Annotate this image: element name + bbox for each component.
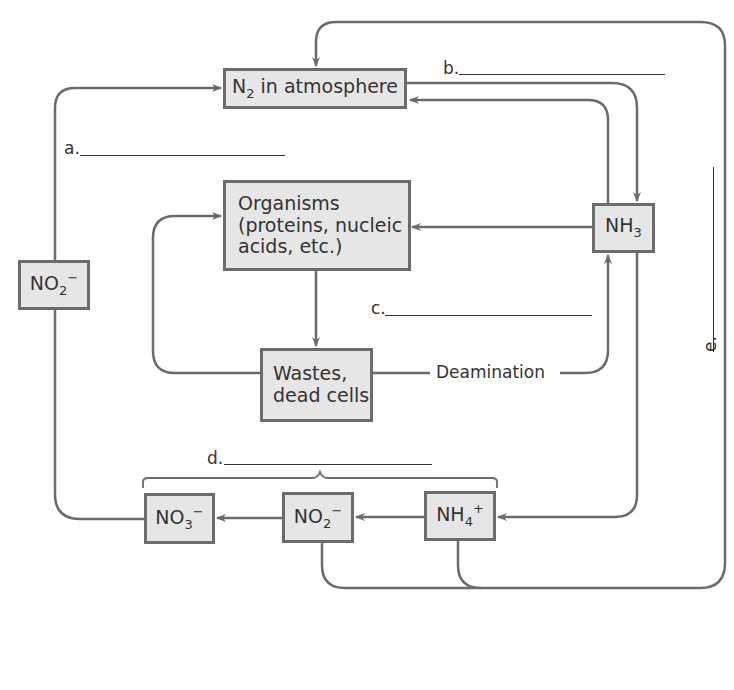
label-b: b. xyxy=(443,58,459,78)
blank-a[interactable] xyxy=(80,155,285,156)
label-d: d. xyxy=(207,448,223,468)
blank-c[interactable] xyxy=(385,315,592,316)
blank-d[interactable] xyxy=(224,464,432,465)
label-e: e. xyxy=(700,336,720,352)
nh3-box: NH3 xyxy=(592,203,655,253)
nh4-box: NH4+ xyxy=(424,491,496,541)
wastes-box: Wastes, dead cells xyxy=(260,348,373,422)
label-deamination: Deamination xyxy=(436,362,545,382)
label-a: a. xyxy=(64,138,80,158)
label-c: c. xyxy=(371,298,386,318)
blank-e[interactable] xyxy=(713,167,714,352)
blank-b[interactable] xyxy=(459,74,665,75)
no2-left-box: NO2− xyxy=(18,260,90,310)
n2-atmosphere-box: N2 in atmosphere xyxy=(223,68,407,109)
organisms-box: Organisms (proteins, nucleic acids, etc.… xyxy=(223,180,411,271)
no2-bottom-box: NO2− xyxy=(282,492,354,543)
no3-box: NO3− xyxy=(144,493,215,544)
